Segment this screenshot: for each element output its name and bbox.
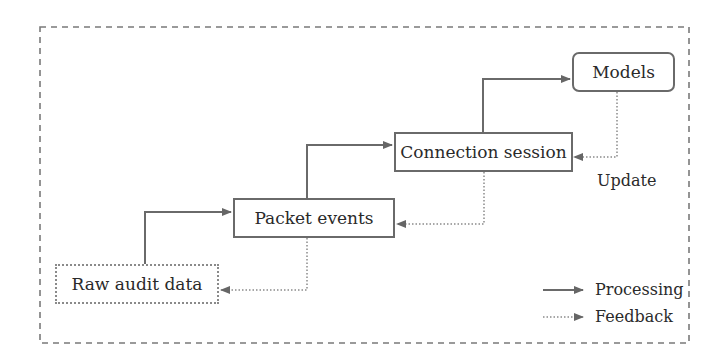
diagram-canvas: Raw audit data Packet events Connection … xyxy=(0,0,725,362)
update-label: Update xyxy=(597,171,656,190)
node-raw-audit-data: Raw audit data xyxy=(55,264,219,304)
legend-processing-label: Processing xyxy=(595,280,684,299)
arrow-packet-to-connection xyxy=(307,145,392,198)
node-label: Raw audit data xyxy=(72,274,203,294)
node-label: Packet events xyxy=(254,208,373,228)
feedback-connection-to-packet xyxy=(397,172,484,224)
node-models: Models xyxy=(572,52,675,92)
node-label: Models xyxy=(592,62,655,82)
feedback-packet-to-raw xyxy=(221,238,307,290)
arrow-connection-to-models xyxy=(483,79,570,132)
legend-feedback-label: Feedback xyxy=(595,307,673,326)
node-connection-session: Connection session xyxy=(394,132,573,172)
node-packet-events: Packet events xyxy=(233,198,395,238)
feedback-models-to-connection xyxy=(574,92,617,157)
node-label: Connection session xyxy=(400,142,566,162)
arrow-raw-to-packet xyxy=(145,212,231,264)
